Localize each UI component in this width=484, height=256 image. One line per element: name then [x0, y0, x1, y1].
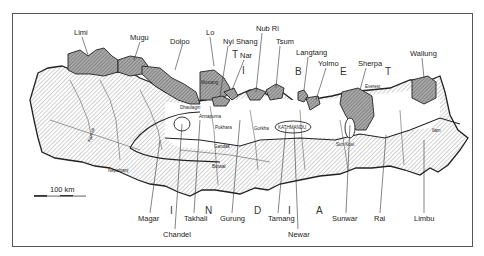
- place-gandak: Gandak: [214, 144, 231, 149]
- place-butwal: Butwal: [212, 164, 226, 169]
- india-letter-3: D: [254, 205, 261, 216]
- label-chandel: Chandel: [163, 230, 191, 239]
- place-gorkha: Gorkha: [254, 126, 269, 131]
- region-lo: [200, 70, 230, 100]
- label-langtang: Langtang: [296, 48, 327, 57]
- region-tsum: [266, 84, 284, 100]
- place-pokhara: Pokhara: [215, 125, 232, 130]
- region-wallung: [412, 76, 436, 104]
- place-sun-kosi: Sun Kosi: [336, 142, 354, 147]
- place-ilam: Ilam: [432, 128, 441, 133]
- tibet-letter-1: T: [232, 49, 238, 60]
- nepal-ethnic-map: T I B E T I N D I A Limi Mugu Dolpo Lo N…: [0, 0, 484, 256]
- place-mustang: Mustang: [201, 80, 219, 85]
- label-limi: Limi: [74, 28, 88, 37]
- region-limi: [68, 48, 118, 76]
- label-tsum: Tsum: [276, 37, 294, 46]
- label-wallung: Wallung: [410, 49, 437, 58]
- scale-label: 100 km: [50, 185, 75, 194]
- place-kathmandu: KATHMANDU: [278, 125, 306, 130]
- label-yolmo: Yolmo: [318, 59, 339, 68]
- place-everest: Everest: [365, 84, 381, 89]
- label-lo: Lo: [206, 28, 214, 37]
- label-sherpa: Sherpa: [358, 59, 383, 68]
- label-tamang: Tamang: [268, 214, 295, 223]
- label-newar: Newar: [288, 230, 310, 239]
- place-nepalganj: Nepalganj: [108, 168, 128, 173]
- label-nar: Nar: [240, 51, 253, 60]
- place-annapurna: Annapurna: [199, 114, 222, 119]
- tibet-letter-4: E: [340, 66, 347, 77]
- label-limbu: Limbu: [414, 214, 434, 223]
- label-sunwar: Sunwar: [332, 214, 358, 223]
- india-letter-5: A: [316, 205, 323, 216]
- tibet-letter-3: B: [295, 66, 302, 77]
- label-nyi-shang: Nyi Shang: [223, 37, 258, 46]
- scale-bar: 100 km: [34, 185, 86, 197]
- label-dolpo: Dolpo: [170, 37, 190, 46]
- label-rai: Rai: [374, 214, 386, 223]
- tibet-letter-5: T: [385, 66, 391, 77]
- label-magar: Magar: [138, 214, 160, 223]
- india-letter-1: I: [170, 205, 173, 216]
- tibet-letter-2: I: [242, 65, 245, 76]
- label-mugu: Mugu: [130, 33, 149, 42]
- place-dhaulagiri: Dhaulagiri: [180, 105, 200, 110]
- label-nub-ri: Nub Ri: [256, 24, 279, 33]
- label-gurung: Gurung: [220, 214, 245, 223]
- label-takhali: Takhali: [184, 214, 208, 223]
